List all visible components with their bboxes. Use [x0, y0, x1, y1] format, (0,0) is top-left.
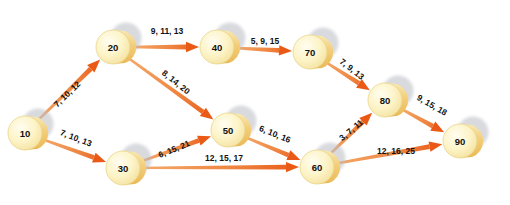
edge-label-40-to-70: 5, 9, 15 [251, 36, 280, 46]
node-face[interactable] [443, 124, 477, 158]
edge-label-10-to-20: 7, 10, 12 [52, 79, 83, 109]
node-face[interactable] [293, 35, 327, 69]
network-diagram-canvas: 102030405060708090 7, 10, 127, 10, 139, … [0, 0, 510, 205]
edge-label-50-to-60: 6, 10, 16 [258, 123, 293, 145]
node-face[interactable] [106, 151, 140, 185]
edge-40-to-70 [235, 45, 292, 55]
edge-50-to-60 [244, 136, 300, 160]
node-90[interactable]: 90 [443, 117, 489, 159]
node-face[interactable] [211, 113, 245, 147]
edge-label-60-to-90: 12, 16, 25 [377, 146, 415, 156]
edge-label-30-to-50: 6, 15, 21 [157, 138, 192, 160]
node-face[interactable] [300, 150, 334, 184]
node-face[interactable] [8, 116, 42, 150]
node-60[interactable]: 60 [300, 143, 346, 185]
node-40[interactable]: 40 [200, 23, 246, 65]
edge-label-80-to-90: 9, 15, 18 [415, 92, 449, 117]
node-face[interactable] [368, 83, 402, 117]
node-face[interactable] [96, 30, 130, 64]
network-diagram: 102030405060708090 7, 10, 127, 10, 139, … [0, 0, 510, 205]
edge-20-to-40 [131, 42, 199, 52]
node-10[interactable]: 10 [8, 109, 54, 151]
edge-label-60-to-80: 3, 7, 11 [337, 117, 365, 143]
edge-20-to-50 [127, 57, 214, 120]
edge-label-30-to-60: 12, 15, 17 [205, 153, 243, 163]
edge-label-20-to-40: 9, 11, 13 [151, 26, 184, 36]
node-20[interactable]: 20 [96, 23, 142, 65]
node-50[interactable]: 50 [211, 106, 257, 148]
node-30[interactable]: 30 [106, 144, 152, 186]
node-face[interactable] [200, 30, 234, 64]
nodes-layer: 102030405060708090 [8, 23, 489, 186]
node-70[interactable]: 70 [293, 28, 339, 70]
edge-30-to-60 [141, 162, 299, 172]
